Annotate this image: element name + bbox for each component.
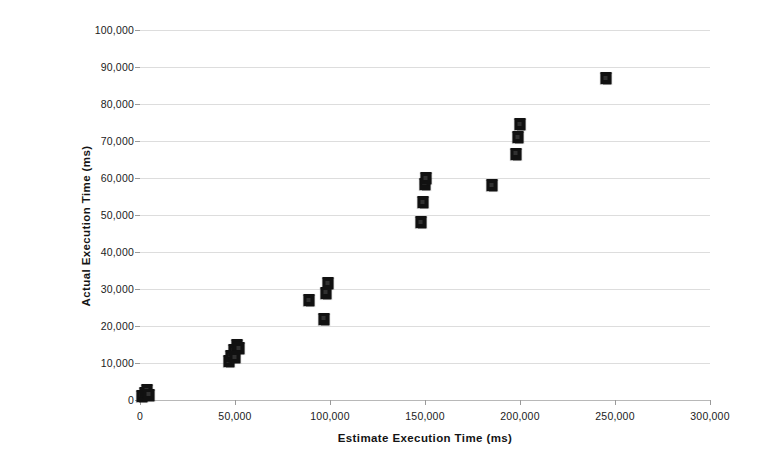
y-tick-label: 30,000	[101, 283, 134, 295]
x-tick-mark	[615, 400, 616, 405]
y-tick-mark	[135, 215, 140, 216]
y-tick-mark	[135, 178, 140, 179]
y-tick-label: 10,000	[101, 357, 134, 369]
x-tick-mark	[425, 400, 426, 405]
y-tick-label: 0	[128, 394, 134, 406]
gridline-y	[140, 67, 710, 68]
y-axis-title: Actual Execution Time (ms)	[80, 66, 92, 386]
y-tick-mark	[135, 104, 140, 105]
y-tick-mark	[135, 363, 140, 364]
y-tick-label: 60,000	[101, 172, 134, 184]
y-tick-mark	[135, 141, 140, 142]
data-point-marker	[416, 216, 427, 228]
data-point-marker	[230, 351, 241, 363]
data-point-marker	[420, 172, 431, 184]
x-tick-mark	[330, 400, 331, 405]
y-tick-mark	[135, 252, 140, 253]
x-tick-label: 300,000	[690, 410, 729, 422]
x-axis-title: Estimate Execution Time (ms)	[140, 432, 710, 444]
data-point-marker	[418, 196, 429, 208]
y-tick-mark	[135, 326, 140, 327]
y-tick-label: 70,000	[101, 135, 134, 147]
gridline-y	[140, 104, 710, 105]
y-tick-mark	[135, 30, 140, 31]
data-point-marker	[513, 131, 524, 143]
gridline-y	[140, 141, 710, 142]
gridline-y	[140, 289, 710, 290]
y-axis-title-wrapper: Actual Execution Time (ms)	[36, 30, 37, 400]
data-point-marker	[319, 313, 330, 325]
x-tick-mark	[710, 400, 711, 405]
gridline-y	[140, 30, 710, 31]
data-point-marker	[600, 72, 611, 84]
x-axis-tick-labels: 050,000100,000150,000200,000250,000300,0…	[140, 410, 710, 428]
y-tick-mark	[135, 289, 140, 290]
gridline-y	[140, 326, 710, 327]
data-point-marker	[486, 179, 497, 191]
plot-area	[140, 30, 710, 400]
x-tick-label: 50,000	[218, 410, 251, 422]
data-point-marker	[511, 148, 522, 160]
y-tick-label: 90,000	[101, 61, 134, 73]
scatter-chart-figure: 010,00020,00030,00040,00050,00060,00070,…	[0, 0, 780, 464]
x-tick-label: 200,000	[500, 410, 539, 422]
x-tick-label: 150,000	[405, 410, 444, 422]
x-tick-mark	[520, 400, 521, 405]
y-axis-tick-labels: 010,00020,00030,00040,00050,00060,00070,…	[60, 30, 134, 400]
x-tick-label: 100,000	[310, 410, 349, 422]
data-point-marker	[515, 118, 526, 130]
y-tick-label: 50,000	[101, 209, 134, 221]
x-tick-label: 250,000	[595, 410, 634, 422]
y-tick-label: 100,000	[95, 24, 134, 36]
data-point-marker	[323, 277, 334, 289]
gridline-y	[140, 252, 710, 253]
data-point-marker	[143, 389, 154, 401]
y-tick-label: 20,000	[101, 320, 134, 332]
y-tick-label: 80,000	[101, 98, 134, 110]
data-point-marker	[304, 294, 315, 306]
x-tick-mark	[235, 400, 236, 405]
x-tick-label: 0	[137, 410, 143, 422]
y-tick-label: 40,000	[101, 246, 134, 258]
y-tick-mark	[135, 67, 140, 68]
